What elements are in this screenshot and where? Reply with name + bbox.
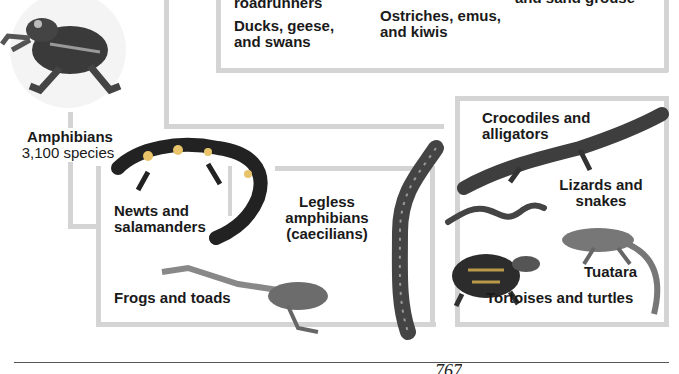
label-crocodiles-alligators: Crocodiles and alligators [482, 110, 590, 142]
main-trunk-horizontal [164, 124, 444, 129]
label-frogs-toads: Frogs and toads [114, 290, 231, 306]
amphibian-stem-lower [68, 162, 73, 228]
birds-box-right-border [664, 0, 669, 72]
label-tuatara: Tuatara [584, 264, 637, 280]
reptile-box-bottom-border [455, 322, 669, 327]
label-sand-grouse: and sand grouse [515, 0, 635, 6]
snake-illustration-icon [444, 196, 548, 226]
label-newts-salamanders: Newts and salamanders [114, 203, 206, 235]
label-roadrunners: roadrunners [234, 0, 322, 11]
page-rule [14, 362, 669, 363]
main-trunk-vertical [164, 0, 169, 128]
birds-box-left-border [216, 0, 221, 72]
label-ducks-geese-swans: Ducks, geese, and swans [234, 18, 334, 50]
reptile-box-top-border [455, 96, 669, 101]
frog-illustration-icon [0, 0, 130, 110]
label-tortoises-turtles: Tortoises and turtles [486, 290, 633, 306]
label-ostriches-emus-kiwis: Ostriches, emus, and kiwis [380, 8, 501, 40]
amphibians-title: Amphibians [20, 129, 120, 145]
label-lizards-snakes: Lizards and snakes [556, 177, 646, 209]
birds-box-bottom-border [216, 68, 668, 73]
caecilian-illustration-icon [370, 142, 440, 342]
label-legless-amphibians: Legless amphibians (caecilians) [282, 194, 372, 242]
amphibians-species-count: 3,100 species [8, 145, 128, 161]
page-number: 767 [435, 364, 462, 374]
amphibian-box-left-border [96, 166, 101, 326]
amphibian-stem [68, 112, 73, 128]
